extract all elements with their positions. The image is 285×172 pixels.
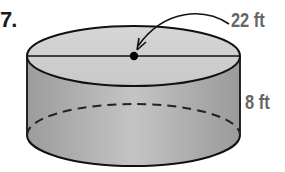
center-dot [130,52,138,60]
diameter-label: 22 ft [231,9,265,32]
height-label: 8 ft [245,91,270,114]
